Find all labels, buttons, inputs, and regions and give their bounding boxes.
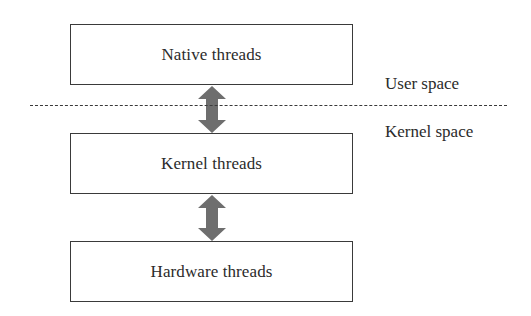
user-kernel-boundary-line <box>30 105 507 106</box>
double-arrow-icon <box>198 195 226 241</box>
user-space-label: User space <box>385 74 459 94</box>
hardware-threads-box: Hardware threads <box>70 241 353 302</box>
kernel-threads-label: Kernel threads <box>161 154 262 174</box>
double-arrow-icon <box>198 86 226 133</box>
native-threads-box: Native threads <box>70 24 353 85</box>
hardware-threads-label: Hardware threads <box>151 262 273 282</box>
kernel-space-label: Kernel space <box>385 122 473 142</box>
kernel-threads-box: Kernel threads <box>70 133 353 194</box>
native-threads-label: Native threads <box>161 45 261 65</box>
thread-layer-diagram: Native threads User space Kernel space K… <box>0 0 531 316</box>
